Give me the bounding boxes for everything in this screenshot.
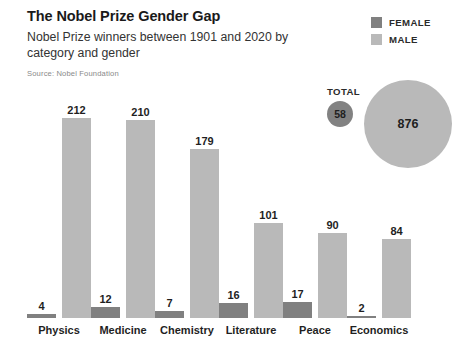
bar-pair: 7179 xyxy=(155,149,219,318)
bar-pair: 12210 xyxy=(91,120,155,318)
bar-male[interactable]: 90 xyxy=(318,233,347,318)
bar-male[interactable]: 212 xyxy=(62,118,91,318)
bar-value-label: 210 xyxy=(126,106,155,118)
bar-value-label: 12 xyxy=(91,293,120,305)
bar-rect[interactable] xyxy=(283,302,312,318)
bar-pair: 284 xyxy=(347,239,411,318)
bar-value-label: 7 xyxy=(155,297,184,309)
chart-page: The Nobel Prize Gender Gap Nobel Prize w… xyxy=(0,0,457,350)
bar-value-label: 4 xyxy=(27,300,56,312)
bar-male[interactable]: 179 xyxy=(190,149,219,318)
bar-value-label: 16 xyxy=(219,289,248,301)
bar-female[interactable]: 16 xyxy=(219,303,248,318)
bar-rect[interactable] xyxy=(27,314,56,318)
category-label: Chemistry xyxy=(155,324,219,336)
category-label: Peace xyxy=(283,324,347,336)
bar-male[interactable]: 101 xyxy=(254,223,283,318)
bar-female[interactable]: 4 xyxy=(27,314,56,318)
bar-value-label: 2 xyxy=(347,302,376,314)
bar-value-label: 179 xyxy=(190,135,219,147)
bar-male[interactable]: 84 xyxy=(382,239,411,318)
bar-rect[interactable] xyxy=(219,303,248,318)
bar-rect[interactable] xyxy=(190,149,219,318)
bar-female[interactable]: 17 xyxy=(283,302,312,318)
category-label: Medicine xyxy=(91,324,155,336)
category-label: Physics xyxy=(27,324,91,336)
bar-value-label: 17 xyxy=(283,288,312,300)
bar-rect[interactable] xyxy=(254,223,283,318)
bar-value-label: 212 xyxy=(62,104,91,116)
bar-value-label: 90 xyxy=(318,219,347,231)
bar-rect[interactable] xyxy=(382,239,411,318)
bar-chart-plot: 4212Physics12210Medicine7179Chemistry161… xyxy=(0,0,457,350)
bar-rect[interactable] xyxy=(62,118,91,318)
bar-value-label: 101 xyxy=(254,209,283,221)
bar-rect[interactable] xyxy=(318,233,347,318)
bar-pair: 16101 xyxy=(219,223,283,318)
bar-female[interactable]: 12 xyxy=(91,307,120,318)
bar-value-label: 84 xyxy=(382,225,411,237)
bar-rect[interactable] xyxy=(347,316,376,318)
bar-male[interactable]: 210 xyxy=(126,120,155,318)
bar-rect[interactable] xyxy=(155,311,184,318)
category-label: Economics xyxy=(347,324,411,336)
bar-pair: 4212 xyxy=(27,118,91,318)
category-label: Literature xyxy=(219,324,283,336)
bar-female[interactable]: 2 xyxy=(347,316,376,318)
bar-rect[interactable] xyxy=(91,307,120,318)
bar-female[interactable]: 7 xyxy=(155,311,184,318)
bar-rect[interactable] xyxy=(126,120,155,318)
bar-pair: 1790 xyxy=(283,233,347,318)
